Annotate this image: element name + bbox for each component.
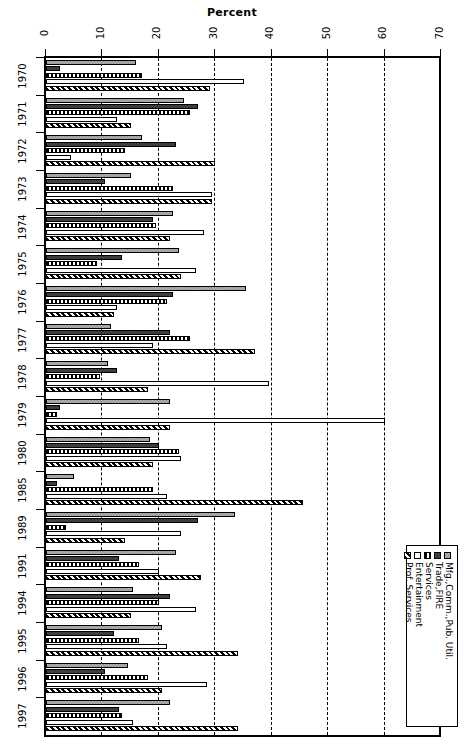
- bar-1995-series-3: [46, 644, 167, 649]
- x-tick-label: 10: [88, 20, 114, 46]
- bar-1976-series-3: [46, 305, 117, 310]
- x-tick-mark: [440, 49, 441, 58]
- bar-1978-series-4: [46, 387, 148, 392]
- bar-1977-series-4: [46, 349, 255, 354]
- bar-1989-series-3: [46, 531, 181, 536]
- legend-label: Services: [423, 562, 434, 722]
- gridline: [271, 58, 272, 735]
- bar-1971-series-1: [46, 104, 198, 109]
- bar-1975-series-2: [46, 261, 97, 266]
- bar-1985-series-4: [46, 500, 303, 505]
- bar-1996-series-0: [46, 663, 128, 668]
- x-tick-mark: [271, 49, 272, 58]
- bar-1994-series-4: [46, 613, 131, 618]
- x-tick-mark: [327, 49, 328, 58]
- bar-1977-series-2: [46, 336, 190, 341]
- bar-1991-series-1: [46, 556, 119, 561]
- y-tick-label-1985: 1985: [6, 471, 40, 509]
- y-tick-label-1975: 1975: [6, 245, 40, 283]
- bar-1996-series-3: [46, 682, 207, 687]
- bar-1977-series-0: [46, 324, 111, 329]
- legend-label: Mfg.,Comm.,Pub. Util.: [443, 562, 454, 722]
- y-tick-label-1991: 1991: [6, 547, 40, 585]
- y-tick-label-1989: 1989: [6, 509, 40, 547]
- bar-1976-series-4: [46, 312, 114, 317]
- y-tick-label-1974: 1974: [6, 208, 40, 246]
- chart-legend: Mfg.,Comm.,Pub. Util.Trade,FIREServicesE…: [406, 545, 458, 727]
- bar-1970-series-3: [46, 79, 244, 84]
- bar-1979-series-3: [46, 418, 385, 423]
- gridline: [384, 58, 385, 735]
- bar-1974-series-3: [46, 230, 204, 235]
- bar-1972-series-3: [46, 155, 71, 160]
- bar-1980-series-4: [46, 462, 153, 467]
- bar-1970-series-0: [46, 60, 136, 65]
- bar-1989-series-1: [46, 518, 198, 523]
- bar-1971-series-3: [46, 117, 117, 122]
- legend-item-3[interactable]: Entertainment: [413, 550, 424, 724]
- bar-1974-series-4: [46, 236, 170, 241]
- x-tick-label: 60: [371, 20, 397, 46]
- legend-item-4[interactable]: Prof. Services: [403, 550, 414, 724]
- axis-bottom-line: [44, 735, 441, 737]
- bar-1989-series-0: [46, 512, 235, 517]
- y-tick-label-1978: 1978: [6, 358, 40, 396]
- legend-label: Trade,FIRE: [433, 562, 444, 722]
- bar-1973-series-2: [46, 186, 173, 191]
- legend-item-0[interactable]: Mfg.,Comm.,Pub. Util.: [443, 550, 454, 724]
- bar-1975-series-4: [46, 274, 181, 279]
- bar-1976-series-0: [46, 286, 246, 291]
- y-tick-label-1994: 1994: [6, 584, 40, 622]
- bar-1980-series-1: [46, 443, 159, 448]
- y-tick-label-1997: 1997: [6, 697, 40, 735]
- x-tick-label: 30: [201, 20, 227, 46]
- bar-1996-series-2: [46, 675, 148, 680]
- y-tick-label-1973: 1973: [6, 170, 40, 208]
- bar-1994-series-1: [46, 594, 170, 599]
- x-tick-label: 20: [145, 20, 171, 46]
- x-tick-label: 50: [314, 20, 340, 46]
- bar-1971-series-0: [46, 98, 184, 103]
- legend-swatch-icon: [424, 552, 431, 559]
- legend-item-1[interactable]: Trade,FIRE: [433, 550, 444, 724]
- x-tick-mark: [384, 49, 385, 58]
- bar-1991-series-2: [46, 562, 139, 567]
- bar-1980-series-2: [46, 449, 179, 454]
- bar-1979-series-0: [46, 399, 170, 404]
- legend-label: Entertainment: [413, 562, 424, 722]
- legend-item-2[interactable]: Services: [423, 550, 434, 724]
- y-tick-label-1995: 1995: [6, 622, 40, 660]
- bar-1995-series-0: [46, 625, 162, 630]
- bar-1979-series-1: [46, 405, 60, 410]
- bar-1975-series-0: [46, 248, 179, 253]
- x-tick-mark: [158, 49, 159, 58]
- bar-1989-series-4: [46, 538, 125, 543]
- bar-1985-series-2: [46, 487, 153, 492]
- bar-1978-series-2: [46, 374, 100, 379]
- gridline: [214, 58, 215, 735]
- x-tick-mark: [214, 49, 215, 58]
- bar-1996-series-1: [46, 669, 105, 674]
- bar-1972-series-1: [46, 142, 176, 147]
- y-tick-label-1979: 1979: [6, 396, 40, 434]
- bar-1980-series-0: [46, 437, 150, 442]
- y-tick-label-1976: 1976: [6, 283, 40, 321]
- legend-label: Prof. Services: [403, 562, 414, 722]
- x-tick-label: 0: [32, 20, 58, 46]
- bar-1997-series-0: [46, 700, 170, 705]
- y-tick-label-1980: 1980: [6, 434, 40, 472]
- bar-1994-series-2: [46, 600, 159, 605]
- bar-1972-series-2: [46, 148, 125, 153]
- y-tick-label-1970: 1970: [6, 57, 40, 95]
- bar-1991-series-0: [46, 550, 176, 555]
- bar-1996-series-4: [46, 688, 162, 693]
- legend-swatch-icon: [444, 552, 451, 559]
- bar-1976-series-2: [46, 299, 167, 304]
- x-tick-mark: [101, 49, 102, 58]
- bar-1973-series-3: [46, 192, 212, 197]
- bar-1994-series-3: [46, 607, 196, 612]
- bar-1985-series-3: [46, 494, 167, 499]
- y-tick-label-1977: 1977: [6, 321, 40, 359]
- bar-1977-series-1: [46, 330, 170, 335]
- bar-1994-series-0: [46, 587, 133, 592]
